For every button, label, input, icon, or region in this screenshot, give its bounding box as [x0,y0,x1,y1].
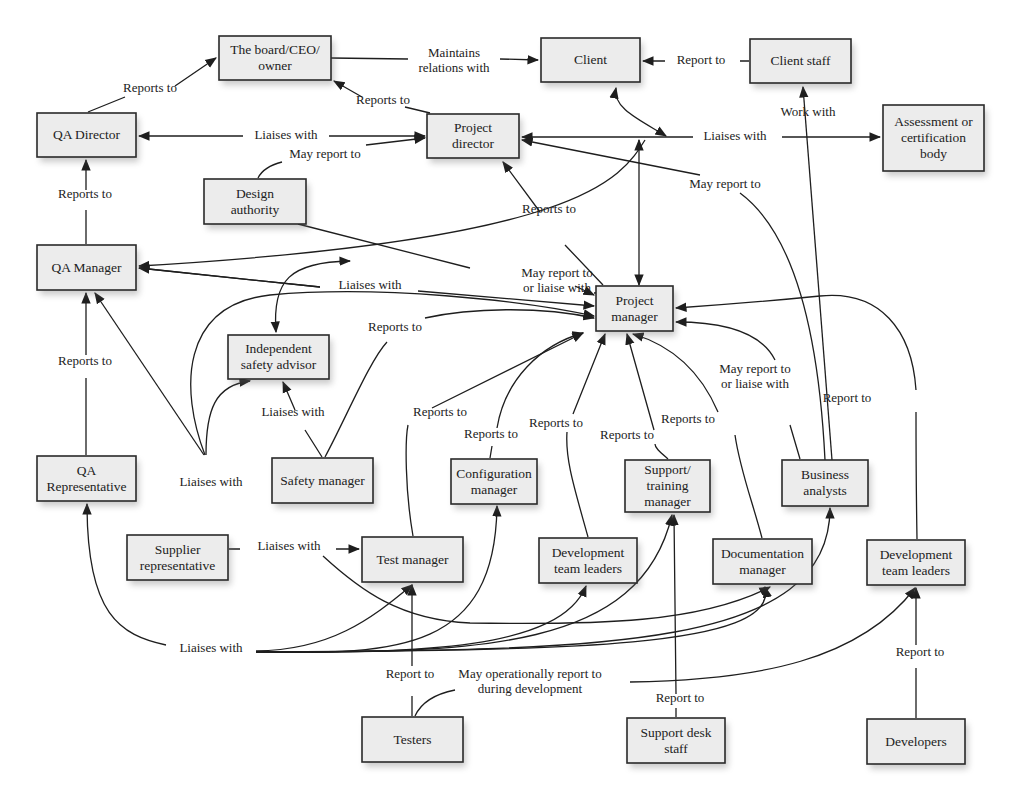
edge-label-text: May report to [689,176,760,191]
edge-label-text: Reports to [58,353,112,368]
edge-label-lbl-da-pd: May report to [289,146,360,161]
edge-label-text: Reports to [58,186,112,201]
node-label: Test manager [376,552,449,567]
edge-label-lbl-dtl-pm: Reports to [529,415,583,430]
node-testers: Testers [362,717,466,767]
edge-bottom-liaises-doc [256,587,766,652]
node-project-director: Projectdirector [427,114,522,163]
node-documentation-manager: Documentationmanager [713,539,815,589]
edge-label-lbl-qam-qad: Reports to [58,186,112,201]
node-label: Supplier [155,542,201,557]
edge-label-text: during development [478,681,583,696]
node-label: owner [258,58,292,73]
node-label: Client staff [770,53,831,68]
node-label: representative [140,558,216,573]
node-label: manager [611,309,658,324]
node-label: analysts [803,483,847,498]
edge-label-text: Report to [656,690,705,705]
edge-label-text: Report to [823,390,872,405]
edge-label-text: Reports to [464,426,518,441]
node-support-desk-staff: Support deskstaff [627,718,728,768]
node-label: Support/ [644,462,691,477]
node-board: The board/CEO/owner [219,36,334,85]
edge-label-lbl-qad-pd: Liaises with [254,127,318,142]
node-label: Development [552,545,625,560]
edge-label-lbl-stm-pm: Reports to [600,427,654,442]
edge-label-text: Reports to [522,201,576,216]
edge-supplier-liaises-isa [206,381,250,455]
edge-label-text: or liaise with [523,280,591,295]
edge-label-lbl-qad-board: Reports to [123,80,177,95]
node-qa-manager: QA Manager [37,245,139,295]
node-label: Testers [393,732,431,747]
node-label: The board/CEO/ [230,42,320,57]
edge-label-lbl-ba-pm: May report toor liaise with [719,361,790,391]
edge-label-text: Liaises with [254,127,318,142]
node-label: Business [801,467,849,482]
edge-label-lbl-sm-pm: Reports to [368,319,422,334]
edge-label-lbl-board-client: Maintainsrelations with [418,45,490,75]
edge-label-lbl-liaises-bottom: Liaises with [179,640,243,655]
node-label: manager [739,562,786,577]
edge-bottom-liaises-test-manager [256,585,412,651]
edge-label-text: Liaises with [179,474,243,489]
node-label: Design [236,186,274,201]
edge-label-lbl-doc-pm: Reports to [661,411,715,426]
node-client-staff: Client staff [750,39,854,88]
edge-label-text: May report to [521,265,592,280]
edge-bottom-liaises-dtl1 [256,586,586,652]
node-dev-team-leaders-2: Developmentteam leaders [867,540,968,590]
node-label: manager [644,494,691,509]
edge-label-lbl-ba-pd: May report to [689,176,760,191]
node-label: QA [77,463,97,478]
edge-label-text: Reports to [600,427,654,442]
edge-label-lbl-sm-isa: Liaises with [261,404,325,419]
edge-label-text: Reports to [661,411,715,426]
edge-supplier-liaises-qa-manager [95,293,204,455]
edge-qa-manager-liaises-pm-start [139,268,320,287]
edge-label-lbl-qar-qam: Reports to [58,353,112,368]
org-diagram: The board/CEO/ownerClientClient staffQA … [0,0,1009,801]
edge-label-text: May operationally report to [458,666,601,681]
node-label: QA Manager [51,260,122,275]
node-label: team leaders [554,561,622,576]
node-label: Safety manager [280,473,365,488]
node-label: Developers [885,734,946,749]
node-assessment-body: Assessment orcertificationbody [883,105,987,176]
node-label: safety advisor [241,357,317,372]
edge-label-text: Liaises with [703,128,767,143]
edge-label-lbl-dev-dtl2: Report to [896,644,945,659]
node-qa-director: QA Director [37,113,139,162]
node-project-manager: Projectmanager [596,286,676,336]
edge-label-text: Liaises with [179,640,243,655]
node-support-training-manager: Support/trainingmanager [625,460,713,517]
edge-safety-manager-liaises-isa [283,382,322,457]
edge-label-lbl-sds-stm: Report to [656,690,705,705]
node-configuration-manager: Configurationmanager [451,459,540,509]
edge-label-text: Liaises with [257,538,321,553]
node-safety-manager: Safety manager [272,458,376,508]
edge-label-lbl-sup-tm: Liaises with [257,538,321,553]
node-label: director [452,136,494,151]
node-label: QA Director [53,127,121,142]
edge-label-text: Work with [781,104,836,119]
node-qa-representative: QARepresentative [37,456,139,506]
edge-label-lbl-tm-pm: Reports to [413,404,467,419]
edge-label-text: Liaises with [261,404,325,419]
edge-label-text: Reports to [413,404,467,419]
node-label: Representative [46,479,126,494]
node-label: Support desk [641,725,712,740]
node-supplier-representative: Supplierrepresentative [127,535,231,585]
node-label: body [920,146,947,161]
edge-label-lbl-cm-pm: Reports to [464,426,518,441]
edge-label-lbl-sup-liaise: Liaises with [179,474,243,489]
edge-label-lbl-pd-board: Reports to [356,92,410,107]
node-label: certification [901,130,966,145]
edge-client-liaises [616,88,666,136]
node-label: authority [231,202,280,217]
edge-label-text: Reports to [356,92,410,107]
edge-label-text: or liaise with [721,376,789,391]
edge-label-lbl-ba-staff: Work with [781,104,836,119]
edge-label-text: Maintains [428,45,480,60]
edge-label-lbl-da-pm: May report toor liaise with [521,265,592,295]
